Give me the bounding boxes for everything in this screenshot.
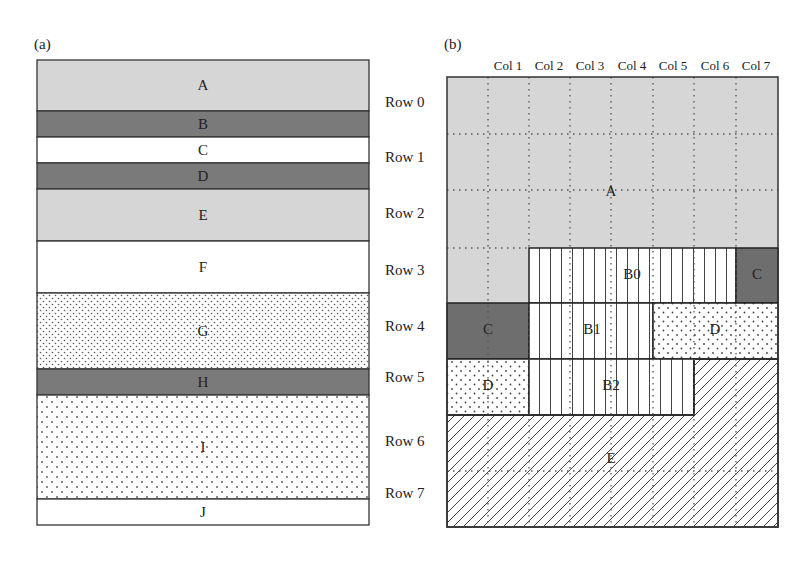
col-label-1: Col 1	[487, 58, 529, 74]
col-label-2: Col 2	[528, 58, 570, 74]
region-label-D-row4: D	[703, 321, 727, 338]
band-label-A: A	[37, 60, 369, 111]
band-label-C: C	[37, 137, 369, 163]
region-label-C-row3: C	[745, 266, 769, 283]
row-label-1: Row 1	[385, 149, 425, 166]
col-label-6: Col 6	[694, 58, 736, 74]
row-label-0: Row 0	[385, 94, 425, 111]
col-label-5: Col 5	[652, 58, 694, 74]
region-label-B2: B2	[591, 377, 631, 394]
row-label-3: Row 3	[385, 262, 425, 279]
row-label-2: Row 2	[385, 205, 425, 222]
col-label-3: Col 3	[569, 58, 611, 74]
band-label-B: B	[37, 111, 369, 137]
band-label-I: I	[37, 395, 369, 499]
band-label-J: J	[37, 499, 369, 525]
band-label-E: E	[37, 189, 369, 241]
row-label-4: Row 4	[385, 318, 425, 335]
region-label-D-row5: D	[476, 377, 500, 394]
region-label-B1: B1	[572, 321, 612, 338]
region-label-E: E	[600, 450, 622, 467]
region-label-A: A	[600, 183, 622, 200]
band-label-D: D	[37, 163, 369, 189]
panel-b-label: (b)	[444, 36, 462, 53]
band-label-G: G	[37, 293, 369, 369]
region-label-B0: B0	[610, 266, 654, 283]
col-label-4: Col 4	[611, 58, 653, 74]
col-label-7: Col 7	[735, 58, 777, 74]
row-label-6: Row 6	[385, 433, 425, 450]
band-label-H: H	[37, 369, 369, 395]
row-label-5: Row 5	[385, 369, 425, 386]
row-label-7: Row 7	[385, 485, 425, 502]
region-label-C-row4: C	[476, 321, 500, 338]
band-label-F: F	[37, 241, 369, 293]
